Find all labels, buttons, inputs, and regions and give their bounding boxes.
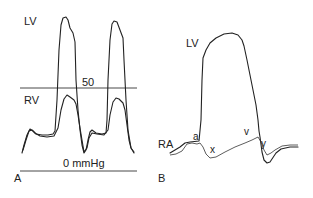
wave-x-label: x (210, 144, 215, 155)
lv-trace-a (22, 17, 134, 153)
panel-b-label: B (158, 172, 165, 184)
lv-label-b: LV (186, 37, 199, 49)
panel-b: LV RA a x v y B (158, 33, 298, 184)
rv-trace-a (23, 95, 134, 152)
line-50-label: 50 (82, 76, 94, 88)
hemodynamic-diagram: LV RV 50 0 mmHg A LV RA a x v y B (0, 0, 313, 198)
wave-y-label: y (261, 138, 266, 149)
wave-v-label: v (244, 126, 249, 137)
zero-mmhg-label: 0 mmHg (63, 157, 105, 169)
wave-a-label: a (193, 131, 199, 142)
ra-trace-b (170, 137, 298, 158)
lv-label-a: LV (24, 15, 37, 27)
panel-a-label: A (14, 172, 22, 184)
panel-a: LV RV 50 0 mmHg A (14, 15, 137, 184)
ra-label: RA (158, 138, 174, 150)
rv-label-a: RV (24, 94, 40, 106)
